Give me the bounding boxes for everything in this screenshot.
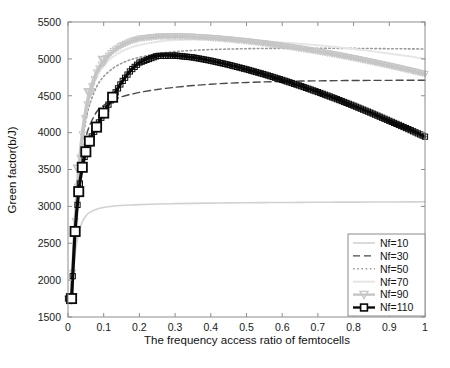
- y-tick-label: 4500: [38, 90, 62, 102]
- legend-label: Nf=70: [380, 276, 408, 288]
- x-tick-label: 0.4: [203, 321, 218, 333]
- chart-figure: 00.10.20.30.40.50.60.70.80.91 1500200025…: [0, 0, 450, 368]
- y-tick-label: 4000: [38, 126, 62, 138]
- legend-label: Nf=30: [380, 250, 408, 262]
- y-tick-label: 5500: [38, 16, 62, 28]
- x-tick-label: 0.2: [132, 321, 147, 333]
- y-tick-label: 3000: [38, 200, 62, 212]
- chart-canvas: 00.10.20.30.40.50.60.70.80.91 1500200025…: [0, 0, 450, 368]
- x-tick-label: 1: [422, 321, 428, 333]
- x-tick-label: 0.6: [275, 321, 290, 333]
- x-tick-label: 0.9: [382, 321, 397, 333]
- x-tick-label: 0.8: [346, 321, 361, 333]
- x-tick-label: 0.5: [239, 321, 254, 333]
- legend-label: Nf=90: [380, 288, 408, 300]
- y-tick-label: 5000: [38, 53, 62, 65]
- legend-marker: [361, 304, 368, 311]
- y-tick-label: 3500: [38, 163, 62, 175]
- chart-legend[interactable]: Nf=10Nf=30Nf=50Nf=70Nf=90Nf=110: [348, 234, 425, 316]
- y-axis-title: Green factor(b/J): [6, 126, 18, 213]
- x-axis-tick-labels: 00.10.20.30.40.50.60.70.80.91: [65, 321, 428, 333]
- y-tick-label: 2500: [38, 237, 62, 249]
- x-axis-title: The frequency access ratio of femtocells: [144, 334, 350, 346]
- legend-label: Nf=10: [380, 237, 408, 249]
- x-tick-label: 0: [65, 321, 71, 333]
- x-tick-label: 0.3: [168, 321, 183, 333]
- legend-label: Nf=110: [380, 301, 414, 313]
- legend-label: Nf=50: [380, 263, 408, 275]
- y-tick-label: 2000: [38, 274, 62, 286]
- x-tick-label: 0.1: [96, 321, 111, 333]
- y-axis-tick-labels: 150020002500300035004000450050005500: [38, 16, 62, 323]
- x-tick-label: 0.7: [311, 321, 326, 333]
- y-tick-label: 1500: [38, 311, 62, 323]
